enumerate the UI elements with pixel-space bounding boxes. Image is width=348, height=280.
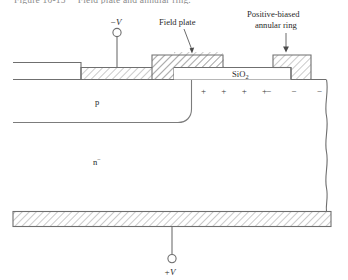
left-metal-hatch-fill (81, 68, 152, 80)
back-contact-hatch-fill (13, 212, 331, 227)
p-well-junction-boundary (13, 80, 192, 123)
positive-terminal-label: +V (164, 267, 177, 277)
negative-interface-charges: − − − (266, 86, 331, 96)
annular-ring-arrowhead-icon (283, 47, 289, 53)
positive-terminal[interactable]: +V (164, 227, 177, 278)
oxide-layer: SiO2 (174, 68, 291, 81)
positive-terminal-node-circle[interactable] (168, 255, 176, 263)
left-block-outline (13, 63, 81, 80)
field-plate-callout: Field plate (159, 17, 196, 54)
field-plate-leader-line (184, 29, 192, 50)
device-cross-section-diagram: SiO2 −V +V Field plate Pos (0, 0, 348, 280)
field-plate-hatch-fill-c (152, 68, 174, 80)
annular-ring-callout: Positive-biased annular ring (247, 9, 300, 53)
back-metal-contact (13, 212, 331, 227)
p-n-junction-curve (13, 80, 192, 123)
field-plate-hatch-fill-b (152, 55, 224, 68)
silicon-right-cleave-edge (326, 80, 327, 212)
negative-terminal[interactable]: −V (110, 17, 123, 68)
negative-terminal-label: −V (110, 17, 123, 27)
negative-terminal-node-circle[interactable] (113, 28, 121, 36)
interface-charges: + + + + − − − (201, 86, 331, 96)
p-region-label: p (95, 97, 99, 107)
semiconductor-body (13, 80, 331, 212)
left-passivation-block (13, 63, 81, 80)
annular-ring-label-line1: Positive-biased (247, 9, 300, 19)
left-metal-contact (81, 68, 152, 80)
annular-ring-label-line2: annular ring (255, 20, 297, 30)
field-plate-label: Field plate (159, 17, 196, 27)
figure-container: Figure 10-15Field plate and annular ring… (0, 0, 348, 280)
n-region-label: n− (93, 156, 101, 167)
positive-interface-charges: + + + + (201, 86, 274, 96)
